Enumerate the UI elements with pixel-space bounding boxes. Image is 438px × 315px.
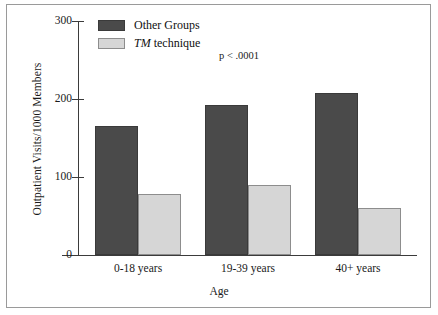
y-tick-label-300: 300 [32, 15, 72, 27]
x-category-label-19-39-years: 19-39 years [193, 262, 303, 274]
bar-other-groups-40-plus-years [315, 93, 358, 255]
x-category-label-0-18-years: 0-18 years [83, 262, 193, 274]
y-tick-mark-200 [72, 99, 84, 100]
y-tick-label-200-wrap: 200 [28, 93, 72, 105]
y-tick-mark-100 [72, 177, 84, 178]
y-axis-line [78, 21, 79, 256]
legend-item-other-groups: Other Groups [98, 17, 200, 33]
p-value-annotation: p < .0001 [219, 50, 259, 61]
legend-label-tm-rest: technique [151, 36, 201, 50]
y-axis-title: Outpatient Visits/1000 Members [31, 39, 43, 239]
y-tick-label-0: 0 [32, 249, 72, 261]
x-axis-title: Age [0, 285, 438, 297]
bar-other-groups-19-39-years [205, 105, 248, 255]
y-tick-label-0-wrap: 0 [28, 249, 72, 261]
legend-label-other-groups: Other Groups [134, 18, 200, 33]
bar-tm-technique-19-39-years [248, 185, 291, 255]
y-tick-label-300-wrap: 300 [28, 15, 72, 27]
chart-legend: Other Groups TM technique [98, 17, 200, 53]
y-tick-label-100-wrap: 100 [28, 171, 72, 183]
y-tick-label-200: 200 [32, 93, 72, 105]
legend-swatch-light-icon [98, 38, 125, 49]
legend-label-tm-italic: TM [134, 36, 151, 50]
bar-tm-technique-40-plus-years [358, 208, 401, 255]
x-axis-line [62, 255, 417, 256]
y-tick-mark-0 [72, 255, 84, 256]
x-category-label-40-plus-years: 40+ years [303, 262, 413, 274]
bar-other-groups-0-18-years [95, 126, 138, 256]
bar-tm-technique-0-18-years [138, 194, 181, 255]
legend-label-tm-technique: TM technique [134, 36, 200, 51]
chart-plot-area: Outpatient Visits/1000 Members 300 200 1… [0, 0, 438, 315]
legend-swatch-dark-icon [98, 20, 125, 31]
y-tick-label-100: 100 [32, 171, 72, 183]
legend-item-tm-technique: TM technique [98, 35, 200, 51]
y-tick-mark-300 [72, 21, 84, 22]
